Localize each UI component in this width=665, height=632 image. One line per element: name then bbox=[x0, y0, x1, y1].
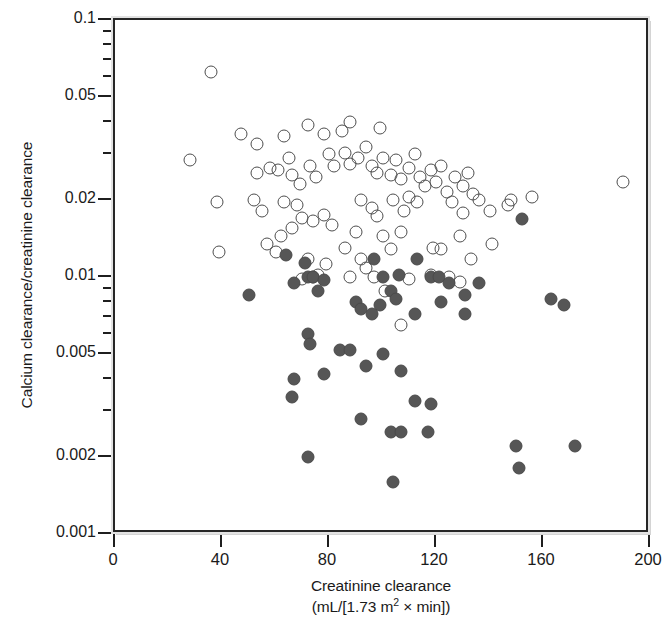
data-point-open bbox=[360, 141, 373, 154]
data-point-filled bbox=[395, 425, 408, 438]
x-axis-tick bbox=[541, 532, 543, 547]
data-point-open bbox=[277, 196, 290, 209]
plot-frame bbox=[113, 18, 648, 532]
data-point-open bbox=[317, 128, 330, 141]
x-axis-tick-label: 160 bbox=[527, 550, 555, 569]
data-point-open bbox=[464, 252, 477, 265]
x-axis-tick bbox=[220, 532, 222, 547]
data-point-filled bbox=[360, 360, 373, 373]
y-axis-minor-tick bbox=[103, 287, 113, 289]
y-axis-tick bbox=[98, 455, 113, 457]
y-axis-tick-label: 0.01 bbox=[0, 266, 96, 284]
data-point-open bbox=[435, 243, 448, 256]
data-point-open bbox=[282, 152, 295, 165]
data-point-open bbox=[395, 319, 408, 332]
y-axis-minor-tick bbox=[103, 58, 113, 60]
data-point-open bbox=[454, 229, 467, 242]
data-point-open bbox=[456, 206, 469, 219]
data-point-filled bbox=[317, 274, 330, 287]
data-point-filled bbox=[569, 440, 582, 453]
data-point-filled bbox=[395, 365, 408, 378]
y-axis-minor-tick bbox=[103, 120, 113, 122]
data-point-filled bbox=[510, 440, 523, 453]
data-point-filled bbox=[298, 257, 311, 270]
x-axis-tick-label: 80 bbox=[318, 550, 336, 569]
y-axis-tick-label: 0.02 bbox=[0, 189, 96, 207]
y-axis-minor-tick bbox=[103, 75, 113, 77]
y-axis-minor-tick bbox=[103, 30, 113, 32]
data-point-open bbox=[389, 154, 402, 167]
data-point-open bbox=[387, 193, 400, 206]
x-axis-units-suffix: × min]) bbox=[399, 598, 450, 615]
data-point-filled bbox=[376, 271, 389, 284]
y-axis-minor-tick bbox=[103, 377, 113, 379]
data-point-filled bbox=[288, 373, 301, 386]
y-axis-tick bbox=[98, 95, 113, 97]
y-axis-tick bbox=[98, 198, 113, 200]
x-axis-title: Creatinine clearance (mL/[1.73 m2 × min]… bbox=[113, 575, 649, 617]
data-point-open bbox=[325, 218, 338, 231]
data-point-open bbox=[210, 196, 223, 209]
x-axis-tick bbox=[327, 532, 329, 547]
data-point-open bbox=[250, 166, 263, 179]
data-point-open bbox=[352, 152, 365, 165]
x-axis-tick bbox=[648, 532, 650, 547]
data-point-filled bbox=[280, 248, 293, 261]
data-point-filled bbox=[317, 367, 330, 380]
y-axis-minor-tick bbox=[103, 43, 113, 45]
data-point-open bbox=[256, 205, 269, 218]
x-axis-units-prefix: (mL/[1.73 m bbox=[312, 598, 394, 615]
data-point-open bbox=[373, 122, 386, 135]
data-point-open bbox=[234, 128, 247, 141]
data-point-open bbox=[371, 210, 384, 223]
data-point-open bbox=[250, 137, 263, 150]
data-point-open bbox=[486, 237, 499, 250]
data-point-open bbox=[376, 229, 389, 242]
y-axis-tick-label: 0.002 bbox=[0, 446, 96, 464]
data-point-open bbox=[371, 166, 384, 179]
data-point-open bbox=[272, 164, 285, 177]
data-point-open bbox=[411, 196, 424, 209]
data-point-filled bbox=[515, 213, 528, 226]
y-axis-tick-label: 0.001 bbox=[0, 523, 96, 541]
data-point-filled bbox=[355, 413, 368, 426]
data-point-open bbox=[408, 148, 421, 161]
data-point-filled bbox=[411, 252, 424, 265]
y-axis-tick-label: 0.05 bbox=[0, 86, 96, 104]
y-axis-tick bbox=[98, 275, 113, 277]
data-point-open bbox=[462, 166, 475, 179]
data-point-open bbox=[339, 241, 352, 254]
data-point-filled bbox=[512, 462, 525, 475]
data-point-open bbox=[213, 246, 226, 259]
data-point-open bbox=[526, 190, 539, 203]
data-point-open bbox=[309, 170, 322, 183]
data-point-open bbox=[395, 225, 408, 238]
data-point-filled bbox=[301, 450, 314, 463]
data-point-filled bbox=[443, 276, 456, 289]
data-point-open bbox=[430, 175, 443, 188]
data-point-filled bbox=[387, 475, 400, 488]
data-point-filled bbox=[242, 289, 255, 302]
y-axis-minor-tick bbox=[103, 300, 113, 302]
data-point-filled bbox=[389, 293, 402, 306]
x-axis-tick-label: 120 bbox=[420, 550, 448, 569]
y-axis-tick-label: 0.005 bbox=[0, 343, 96, 361]
data-point-open bbox=[349, 225, 362, 238]
data-point-open bbox=[328, 160, 341, 173]
x-axis-title-line2: (mL/[1.73 m2 × min]) bbox=[113, 596, 649, 617]
data-point-open bbox=[277, 129, 290, 142]
y-axis-minor-tick bbox=[103, 315, 113, 317]
data-point-filled bbox=[408, 307, 421, 320]
data-point-open bbox=[205, 65, 218, 78]
data-point-filled bbox=[459, 307, 472, 320]
data-point-open bbox=[384, 243, 397, 256]
y-axis-tick bbox=[98, 18, 113, 20]
data-point-filled bbox=[435, 295, 448, 308]
x-axis-tick-label: 200 bbox=[634, 550, 662, 569]
data-point-open bbox=[344, 116, 357, 129]
data-point-open bbox=[301, 119, 314, 132]
y-axis-tick bbox=[98, 532, 113, 534]
data-point-open bbox=[248, 193, 261, 206]
data-point-open bbox=[435, 160, 448, 173]
data-point-filled bbox=[459, 289, 472, 302]
